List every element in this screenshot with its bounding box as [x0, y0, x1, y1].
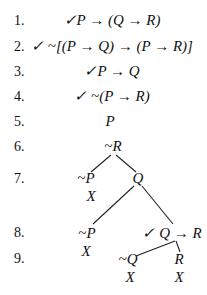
line-number-1: 1. [14, 14, 25, 28]
line-number-2: 2. [14, 40, 25, 54]
line-number-6: 6. [14, 140, 25, 154]
branch-8-left: ~P [78, 226, 95, 241]
branch-9-left-closed-mark: X [125, 270, 134, 285]
line-3-formula: ✓P → Q [84, 64, 139, 79]
branch-7-left: ~P [77, 171, 94, 186]
line-number-7: 7. [14, 172, 25, 186]
line-5-formula: P [105, 114, 114, 129]
branch-7-left-closed-mark: X [86, 189, 95, 204]
line-number-3: 3. [14, 65, 25, 79]
branch-line-7-to-8-left [93, 186, 134, 224]
branch-8-right: ✓ Q → R [142, 226, 201, 241]
branch-line-7-to-8-right [142, 186, 173, 224]
branch-line-8-to-9-left [136, 241, 175, 256]
line-number-5: 5. [14, 115, 25, 129]
line-number-8: 8. [14, 226, 25, 240]
branch-9-left: ~Q [119, 252, 138, 267]
branch-9-right: R [174, 252, 183, 267]
negated-conclusion-formula: ✓ ~[(P → Q) → (P → R)] [31, 39, 193, 54]
premise-1-formula: ✓P → (Q → R) [64, 13, 161, 28]
line-4-formula: ✓ ~(P → R) [74, 89, 149, 104]
branch-7-right: Q [133, 171, 144, 186]
line-6-formula: ~R [104, 139, 121, 154]
branch-8-left-closed-mark: X [81, 244, 90, 259]
line-number-4: 4. [14, 90, 25, 104]
branch-9-right-closed-mark: X [174, 270, 183, 285]
line-number-9: 9. [14, 252, 25, 266]
